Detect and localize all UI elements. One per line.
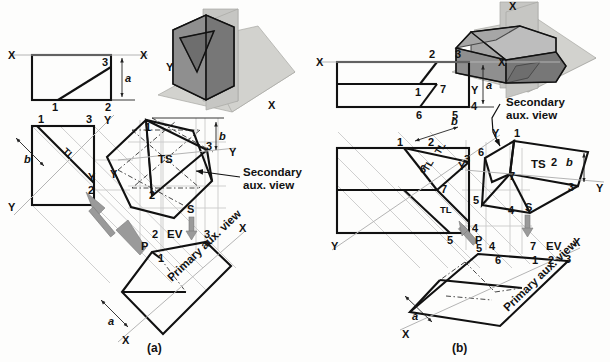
pictorial-b-label-Y: Y bbox=[471, 84, 479, 96]
secondary-aux-a-dim-b: b bbox=[219, 130, 226, 142]
top-view-b-vertex-1: 1 bbox=[415, 86, 421, 98]
top-view-b-vertex-3: 3 bbox=[455, 48, 461, 60]
panel-b-secondary-aux-view: Y Y 1 6 7 2 3 5 4 TS b Secondary aux. vi… bbox=[458, 96, 604, 237]
top-view-a-ref-X-right: X bbox=[140, 49, 148, 61]
primary-aux-a-ref-X-upper: X bbox=[239, 222, 247, 234]
panel-a-pictorial: Y X bbox=[158, 9, 295, 112]
pictorial-a-label-Y: Y bbox=[166, 61, 174, 73]
arrow-P-a bbox=[86, 192, 146, 255]
secondary-aux-b-vertex-3: 3 bbox=[568, 181, 574, 193]
panel-b-caption: (b) bbox=[452, 341, 467, 355]
primary-aux-b-ref-X-lower: X bbox=[402, 328, 410, 340]
figure-root: Y X bbox=[0, 0, 610, 362]
front-view-a-ref-Y-mid: Y bbox=[88, 171, 96, 183]
front-view-a-dim-b: b bbox=[24, 153, 31, 165]
top-view-a-dim-a: a bbox=[125, 72, 131, 84]
primary-aux-b-direction-P: P bbox=[475, 234, 482, 246]
top-view-b-vertex-6: 6 bbox=[416, 109, 422, 121]
primary-aux-a-name: Primary aux. view bbox=[165, 207, 243, 283]
top-view-b-ref-X-left: X bbox=[316, 56, 324, 68]
primary-aux-a-dim-a: a bbox=[108, 315, 114, 327]
top-view-b-vertex-4: 4 bbox=[471, 100, 478, 112]
primary-aux-b-vertex-7: 7 bbox=[530, 240, 536, 252]
top-view-b-dim-a: a bbox=[486, 79, 492, 91]
secondary-aux-b-direction-S: S bbox=[525, 201, 532, 213]
primary-aux-b-vertex-6: 6 bbox=[495, 254, 501, 266]
primary-aux-b-dim-a: a bbox=[412, 310, 418, 322]
secondary-aux-a-vertex-2: 2 bbox=[149, 189, 155, 201]
secondary-aux-a-ref-Y-right: Y bbox=[229, 146, 237, 158]
secondary-aux-b-vertex-7: 7 bbox=[509, 170, 515, 182]
secondary-aux-b-ts-label: TS bbox=[531, 158, 546, 170]
secondary-aux-a-note-line1: Secondary bbox=[243, 166, 302, 178]
panel-b: X Y bbox=[316, 0, 604, 355]
top-view-b-vertex-7: 7 bbox=[440, 83, 446, 95]
front-view-a-vertex-1: 1 bbox=[38, 113, 44, 125]
front-view-a-tl-label: TL bbox=[61, 145, 77, 161]
secondary-aux-b-ref-Y-left: Y bbox=[458, 160, 466, 172]
front-view-a-vertex-3: 3 bbox=[86, 113, 92, 125]
top-view-b-ref-X-right: X bbox=[498, 56, 506, 68]
secondary-aux-b-vertex-2: 2 bbox=[551, 156, 557, 168]
front-view-b-dim-b: b bbox=[451, 115, 458, 127]
front-view-b-vertex-4: 4 bbox=[472, 222, 479, 234]
primary-aux-a-direction-P: P bbox=[141, 240, 148, 252]
pictorial-a-label-X: X bbox=[268, 99, 276, 111]
secondary-aux-b-note-line2: aux. view bbox=[506, 109, 557, 121]
primary-aux-a-vertex-1: 1 bbox=[158, 252, 164, 264]
top-view-a-vertex-2: 2 bbox=[105, 101, 111, 113]
front-view-b-vertex-2: 2 bbox=[428, 136, 434, 148]
front-view-b-vertex-5: 5 bbox=[447, 234, 453, 246]
secondary-aux-b-vertex-1: 1 bbox=[514, 127, 520, 139]
secondary-aux-a-vertex-3: 3 bbox=[206, 140, 212, 152]
secondary-aux-b-vertex-4: 4 bbox=[508, 204, 515, 216]
primary-aux-b-name: Primary aux. view bbox=[501, 237, 579, 313]
primary-aux-a-ev-label: EV bbox=[167, 228, 183, 240]
pictorial-b-label-X: X bbox=[509, 0, 517, 12]
secondary-aux-b-ref-Y-right: Y bbox=[596, 182, 604, 194]
secondary-aux-b-note-line1: Secondary bbox=[506, 96, 565, 108]
secondary-aux-b-dim-b: b bbox=[566, 156, 573, 168]
panel-b-primary-aux-view: X X 4 5 6 7 1 2 3 EV a Primary aux. view… bbox=[400, 221, 581, 340]
primary-aux-b-vertex-4: 4 bbox=[489, 240, 496, 252]
front-view-b-vertex-1: 1 bbox=[397, 136, 403, 148]
primary-aux-a-vertex-2: 2 bbox=[152, 228, 158, 240]
panel-a: Y X bbox=[8, 9, 302, 355]
secondary-aux-b-vertex-6: 6 bbox=[478, 146, 484, 158]
panel-a-caption: (a) bbox=[147, 341, 162, 355]
secondary-aux-b-vertex-5: 5 bbox=[473, 194, 479, 206]
secondary-aux-a-vertex-1: 1 bbox=[145, 121, 151, 133]
secondary-aux-a-ref-Y-left: Y bbox=[110, 168, 118, 180]
secondary-aux-a-ts-label: TS bbox=[158, 153, 173, 165]
panel-a-top-view: X X 3 1 2 a bbox=[8, 49, 148, 113]
primary-aux-b-vertex-1: 1 bbox=[532, 254, 538, 266]
arrow-S-a bbox=[186, 217, 197, 240]
front-view-a-ref-Y-lower: Y bbox=[8, 201, 16, 213]
front-view-a-ref-Y-upper: Y bbox=[104, 114, 112, 126]
primary-aux-a-ref-X-lower: X bbox=[122, 334, 130, 346]
front-view-b-tl-3: TL bbox=[440, 204, 452, 215]
panel-b-pictorial: X Y bbox=[452, 0, 596, 98]
top-view-a-vertex-1: 1 bbox=[52, 101, 58, 113]
panel-b-front-view: Y Y 1 2 3 6 7 5 4 TL TL TL b bbox=[331, 115, 500, 252]
front-view-b-ref-Y-lower: Y bbox=[331, 240, 339, 252]
secondary-aux-a-direction-S: S bbox=[187, 203, 194, 215]
front-view-b-vertex-7: 7 bbox=[441, 183, 447, 195]
top-view-b-vertex-2: 2 bbox=[429, 48, 435, 60]
technical-drawing-svg: Y X bbox=[0, 0, 610, 362]
top-view-a-ref-X-left: X bbox=[8, 49, 16, 61]
secondary-aux-a-note-line2: aux. view bbox=[243, 179, 294, 191]
panel-b-projection-lines bbox=[338, 132, 560, 268]
top-view-a-vertex-3: 3 bbox=[102, 56, 108, 68]
